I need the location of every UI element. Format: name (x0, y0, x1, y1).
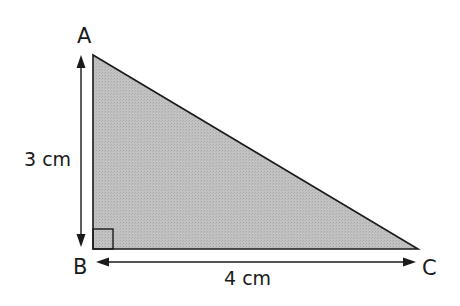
triangle-abc (93, 55, 418, 249)
vertex-label-c: C (422, 258, 437, 279)
vertical-dimension-arrow (77, 55, 86, 247)
vertex-label-b: B (73, 257, 87, 278)
horizontal-dimension-arrow (96, 258, 416, 267)
vertex-label-a: A (77, 26, 91, 47)
dimension-label-horizontal: 4 cm (224, 269, 271, 288)
dimension-label-vertical: 3 cm (24, 150, 71, 169)
